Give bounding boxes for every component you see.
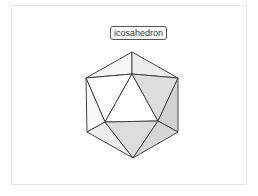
icosahedron-figure — [0, 0, 258, 196]
